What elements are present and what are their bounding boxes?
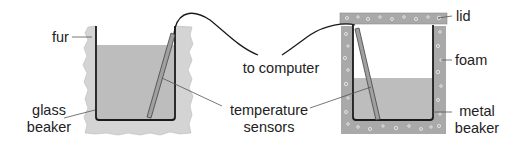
to-computer-label: to computer (226, 60, 336, 76)
fur-label: fur (52, 29, 69, 45)
water-left (97, 45, 174, 119)
foam-label: foam (455, 52, 487, 68)
temperature-sensors-label-line2: sensors (221, 119, 317, 135)
metal-beaker-label-line1: metal (452, 103, 502, 119)
metal-beaker-label-line2: beaker (450, 120, 504, 136)
left-setup (64, 26, 193, 135)
temperature-sensors-label-line1: temperature (221, 102, 317, 118)
insulation-experiment-diagram: fur glass beaker to computer temperature… (0, 0, 524, 151)
lid-label: lid (456, 8, 471, 24)
water-right (354, 78, 432, 119)
glass-beaker-label-line1: glass (26, 102, 72, 118)
glass-beaker-label-line2: beaker (24, 119, 74, 135)
right-setup (340, 13, 452, 134)
